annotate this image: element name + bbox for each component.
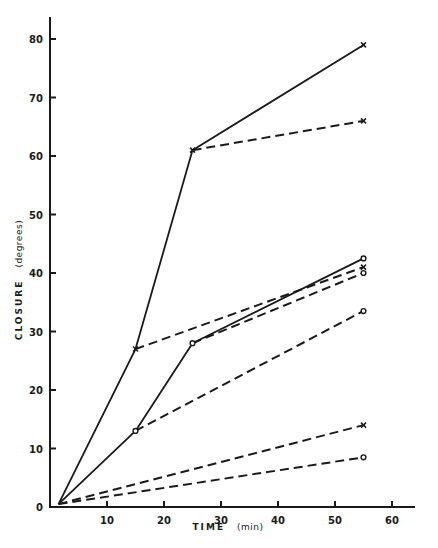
y-tick-label: 40	[29, 268, 43, 279]
y-ticks: 01020304050607080	[29, 34, 56, 513]
series-line-solid	[59, 45, 364, 504]
x-tick-label: 10	[100, 515, 114, 526]
marker-layer	[133, 42, 366, 459]
y-tick-label: 60	[29, 151, 43, 162]
x-tick-label: 20	[157, 515, 171, 526]
y-tick-label: 0	[36, 502, 43, 513]
circle-marker-icon	[361, 309, 366, 314]
y-axis-unit: (degrees)	[14, 220, 24, 268]
y-tick-label: 10	[29, 444, 43, 455]
y-tick-label: 20	[29, 385, 43, 396]
series-line-dashed	[136, 267, 364, 349]
circle-marker-icon	[361, 256, 366, 261]
y-tick-label: 30	[29, 327, 43, 338]
series-line-solid	[59, 258, 364, 504]
series-line-dashed	[193, 273, 364, 343]
closure-vs-time-chart: 01020304050607080 102030405060 CLOSURE (…	[0, 0, 438, 548]
circle-marker-icon	[133, 429, 138, 434]
x-tick-label: 40	[271, 515, 285, 526]
x-axis-unit: (min)	[237, 522, 264, 532]
y-tick-label: 50	[29, 210, 43, 221]
y-tick-label: 80	[29, 34, 43, 45]
series-line-dashed	[193, 121, 364, 150]
x-tick-label: 60	[385, 515, 399, 526]
svg-text:CLOSURE (degrees): CLOSURE (degrees)	[8, 220, 25, 340]
circle-marker-icon	[361, 455, 366, 460]
x-axis-label: TIME	[192, 522, 225, 532]
series-layer	[59, 45, 364, 504]
axes: 01020304050607080 102030405060	[29, 17, 415, 526]
svg-text:TIME (min): TIME (min)	[192, 516, 263, 533]
y-axis-label: CLOSURE	[14, 280, 24, 341]
x-tick-label: 50	[328, 515, 342, 526]
y-tick-label: 70	[29, 93, 43, 104]
x-axis-title: TIME (min)	[192, 516, 263, 533]
circle-marker-icon	[190, 341, 195, 346]
x-marker-icon	[361, 42, 366, 47]
y-axis-title: CLOSURE (degrees)	[8, 220, 25, 340]
series-line-dashed	[59, 425, 364, 504]
circle-marker-icon	[361, 271, 366, 276]
series-line-dashed	[136, 311, 364, 431]
